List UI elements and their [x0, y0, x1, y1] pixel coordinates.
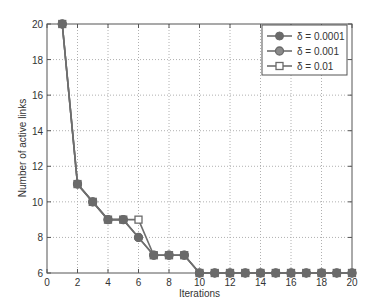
square-marker-icon: [276, 63, 283, 70]
filled-circle-marker-icon: [211, 269, 219, 277]
filled-circle-marker-icon: [58, 20, 66, 28]
filled-circle-marker-icon: [196, 269, 204, 277]
x-tick-label: 16: [285, 277, 297, 288]
filled-circle-marker-icon: [135, 233, 143, 241]
legend: δ = 0.0001δ = 0.001δ = 0.01: [262, 25, 347, 75]
x-tick-label: 0: [44, 277, 50, 288]
y-tick-label: 12: [32, 161, 44, 172]
filled-circle-marker-icon: [257, 269, 265, 277]
filled-circle-marker-icon: [150, 251, 158, 259]
filled-circle-marker-icon: [302, 269, 310, 277]
x-tick-label: 20: [346, 277, 358, 288]
filled-circle-marker-icon: [226, 269, 234, 277]
legend-label: δ = 0.0001: [297, 31, 345, 42]
x-tick-label: 14: [255, 277, 267, 288]
y-tick-label: 16: [32, 90, 44, 101]
x-tick-label: 10: [194, 277, 206, 288]
filled-circle-marker-icon: [272, 269, 280, 277]
filled-circle-marker-icon: [241, 269, 249, 277]
x-tick-label: 4: [105, 277, 111, 288]
filled-circle-marker-icon: [89, 198, 97, 206]
filled-circle-marker-icon: [287, 269, 295, 277]
legend-label: δ = 0.01: [297, 61, 334, 72]
filled-circle-marker-icon: [165, 251, 173, 259]
y-tick-label: 8: [37, 232, 43, 243]
x-tick-label: 8: [166, 277, 172, 288]
x-tick-label: 18: [316, 277, 328, 288]
filled-circle-marker-icon: [318, 269, 326, 277]
legend-label: δ = 0.001: [297, 46, 339, 57]
line-chart: 02468101214161820 68101214161820 Iterati…: [0, 0, 375, 308]
filled-circle-marker-icon: [180, 251, 188, 259]
filled-circle-marker-icon: [119, 216, 127, 224]
x-tick-label: 12: [224, 277, 236, 288]
y-tick-label: 20: [32, 19, 44, 30]
y-tick-label: 18: [32, 55, 44, 66]
y-tick-label: 6: [37, 268, 43, 279]
filled-circle-marker-icon: [348, 269, 356, 277]
x-tick-label: 6: [136, 277, 142, 288]
filled-circle-marker-icon: [333, 269, 341, 277]
x-tick-label: 2: [75, 277, 81, 288]
circle-marker-icon: [276, 47, 284, 55]
y-tick-label: 14: [32, 126, 44, 137]
y-axis-label: Number of active links: [17, 99, 28, 197]
filled-circle-marker-icon: [74, 180, 82, 188]
x-axis-label: Iterations: [179, 288, 220, 299]
y-tick-label: 10: [32, 197, 44, 208]
filled-circle-marker-icon: [276, 32, 284, 40]
filled-circle-marker-icon: [104, 216, 112, 224]
square-marker-icon: [135, 216, 142, 223]
